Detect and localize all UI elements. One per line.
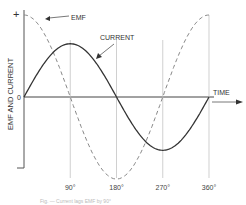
tick-label-90: 90° — [65, 184, 76, 191]
figure-caption: Fig. — Current lags EMF by 90° — [40, 198, 111, 204]
emf-leader-arrow-icon — [45, 16, 50, 21]
tick-label-360: 360° — [202, 184, 217, 191]
current-label: CURRENT — [100, 34, 135, 41]
tick-label-180: 180° — [109, 184, 124, 191]
emf-current-diagram: + 0 EMF AND CURRENT TIME 90°180°270°360°… — [0, 0, 246, 205]
emf-label: EMF — [71, 14, 86, 21]
y-plus-label: + — [13, 8, 19, 20]
emf-leader-line — [49, 16, 69, 18]
time-arrow-icon — [236, 100, 243, 105]
y-axis-label: EMF AND CURRENT — [6, 57, 15, 130]
time-label: TIME — [213, 89, 230, 96]
y-zero-label: 0 — [17, 94, 21, 101]
tick-label-270: 270° — [156, 184, 171, 191]
current-leader-line — [99, 44, 114, 56]
